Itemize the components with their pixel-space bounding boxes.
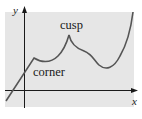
y-axis-label: y [12,4,18,16]
function-graph-diagram: y x corner cusp [0,0,142,119]
x-axis-label: x [131,95,137,107]
y-axis-arrow-icon [22,6,27,13]
corner-label: corner [33,65,66,79]
x-axis-arrow-icon [131,88,138,93]
cusp-label: cusp [60,18,83,32]
